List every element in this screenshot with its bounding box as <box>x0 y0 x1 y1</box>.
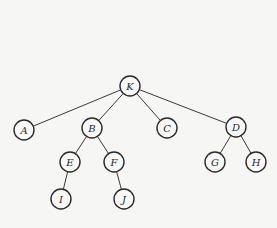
node-label: F <box>110 157 119 168</box>
tree-node-k: K <box>120 76 140 96</box>
node-layer: KABCDEFGHIJ <box>14 76 266 209</box>
tree-node-e: E <box>60 152 80 172</box>
edge-b-f <box>97 136 108 153</box>
tree-node-j: J <box>114 189 134 209</box>
node-label: K <box>125 81 134 92</box>
node-label: A <box>19 125 27 136</box>
edge-b-e <box>75 136 86 153</box>
tree-diagram: KABCDEFGHIJ <box>0 0 277 228</box>
node-label: C <box>163 123 171 134</box>
tree-node-i: I <box>51 189 71 209</box>
edge-k-d <box>139 90 226 124</box>
node-label: E <box>65 157 74 168</box>
tree-node-c: C <box>157 118 177 138</box>
node-label: G <box>211 157 219 168</box>
node-label: B <box>87 123 95 134</box>
edge-k-c <box>137 94 161 121</box>
edge-layer <box>33 90 251 190</box>
tree-node-h: H <box>246 152 266 172</box>
edge-k-a <box>33 90 121 126</box>
node-label: J <box>120 194 127 205</box>
edge-f-j <box>117 172 122 190</box>
tree-node-d: D <box>226 117 246 137</box>
tree-node-g: G <box>205 152 225 172</box>
tree-node-b: B <box>82 118 102 138</box>
edge-e-i <box>63 172 67 190</box>
tree-node-f: F <box>104 152 124 172</box>
tree-node-a: A <box>14 120 34 140</box>
node-label: H <box>251 157 261 168</box>
tree-diagram-canvas: KABCDEFGHIJ <box>0 0 277 228</box>
edge-d-h <box>241 136 251 154</box>
edge-d-g <box>220 136 231 154</box>
node-label: D <box>231 122 240 133</box>
